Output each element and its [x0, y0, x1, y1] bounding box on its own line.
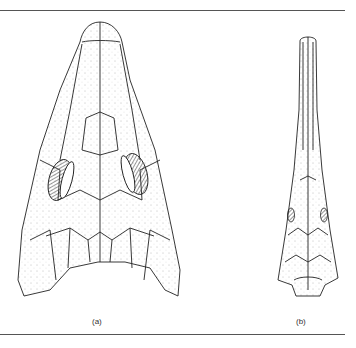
skull-a: [18, 22, 180, 296]
panel-label-a: (a): [92, 317, 102, 326]
bottom-rule: [0, 334, 345, 335]
skull-b: [278, 37, 338, 296]
orbit-left-b: [288, 208, 295, 222]
figure-drawing: [0, 0, 356, 348]
panel-label-b: (b): [296, 317, 306, 326]
orbit-right-b: [321, 208, 328, 222]
